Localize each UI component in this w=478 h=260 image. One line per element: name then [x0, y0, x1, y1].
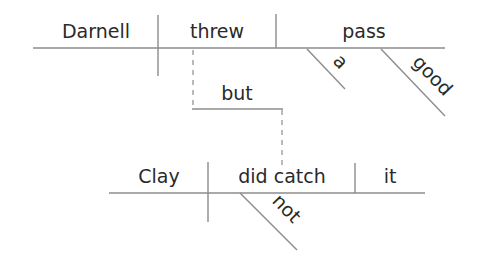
clause-1-subject: Darnell — [62, 20, 130, 42]
sentence-diagram: Darnell threw pass a good but Clay did c… — [0, 0, 478, 260]
clause-1-object: pass — [342, 20, 386, 42]
clause-2-object: it — [384, 165, 397, 187]
clause-2-subject: Clay — [138, 165, 179, 187]
conjunction-connector: but — [192, 50, 283, 166]
clause-1-verb: threw — [190, 20, 244, 42]
modifier-not: not — [268, 189, 305, 227]
modifier-a: a — [329, 49, 353, 73]
clause-2: Clay did catch it not — [109, 162, 425, 250]
conjunction-word: but — [221, 82, 253, 104]
modifier-good: good — [409, 50, 458, 99]
clause-2-verb: did catch — [238, 165, 325, 187]
